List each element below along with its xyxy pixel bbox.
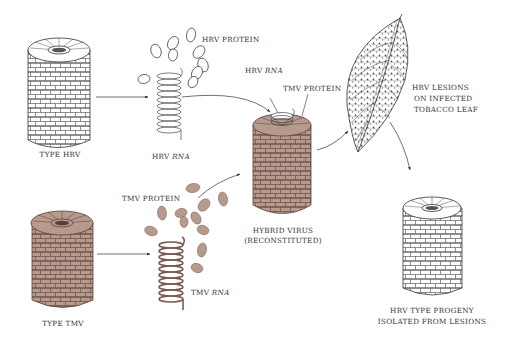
label-hybrid-tmv-protein: TMV PROTEIN bbox=[283, 84, 341, 93]
label-hybrid-line1: HYBRID VIRUS bbox=[244, 226, 322, 236]
label-hybrid-hrv-rna-strain: HRV bbox=[245, 66, 265, 75]
label-hrv-protein: HRV PROTEIN bbox=[202, 35, 260, 44]
label-hybrid-virus: HYBRID VIRUS (RECONSTITUTED) bbox=[244, 226, 322, 246]
tobacco-leaf bbox=[347, 14, 408, 152]
label-type-hrv: TYPE HRV bbox=[40, 150, 81, 159]
arrow-hrv-rna-to-hybrid bbox=[182, 95, 270, 112]
label-hrv-lesions-line2: ON INFECTED bbox=[412, 93, 478, 104]
label-hybrid-hrv-rna-text: RNA bbox=[265, 66, 283, 75]
label-tmv-rna: TMV RNA bbox=[191, 288, 230, 297]
type-hrv-virus bbox=[28, 38, 90, 148]
label-hrv-rna: HRV RNA bbox=[152, 152, 190, 161]
hrv-protein-subunits bbox=[137, 27, 210, 89]
label-progeny-line1: HRV TYPE PROGENY bbox=[378, 305, 486, 316]
hybrid-virus bbox=[253, 109, 311, 214]
leader-tmv-protein bbox=[302, 94, 308, 116]
label-type-tmv: TYPE TMV bbox=[42, 319, 84, 328]
label-hybrid-hrv-rna: HRV RNA bbox=[245, 66, 283, 75]
arrow-hybrid-to-leaf bbox=[317, 131, 348, 150]
label-tmv-protein: TMV PROTEIN bbox=[122, 194, 180, 203]
type-tmv-virus bbox=[31, 211, 93, 308]
tmv-rna-coil bbox=[159, 237, 184, 310]
arrow-leaf-to-progeny bbox=[390, 122, 410, 170]
label-hrv-lesions-line3: TOBACCO LEAF bbox=[412, 104, 478, 115]
label-hrv-rna-text: RNA bbox=[172, 152, 190, 161]
label-hybrid-line2: (RECONSTITUTED) bbox=[244, 236, 322, 246]
label-progeny-line2: ISOLATED FROM LESIONS bbox=[378, 316, 486, 327]
label-hrv-progeny: HRV TYPE PROGENY ISOLATED FROM LESIONS bbox=[378, 305, 486, 327]
virus-reconstitution-diagram: TYPE HRV HRV PROTEIN HRV RNA HRV RNA TMV… bbox=[0, 0, 509, 345]
label-hrv-lesions: HRV LESIONS ON INFECTED TOBACCO LEAF bbox=[412, 82, 478, 115]
hrv-rna-coil bbox=[157, 68, 182, 140]
label-hrv-rna-strain: HRV bbox=[152, 152, 172, 161]
label-tmv-rna-strain: TMV bbox=[191, 288, 212, 297]
leader-hrv-rna bbox=[270, 98, 278, 113]
label-hrv-lesions-line1: HRV LESIONS bbox=[412, 82, 478, 93]
hrv-progeny-virus bbox=[403, 197, 462, 295]
label-tmv-rna-text: RNA bbox=[212, 288, 230, 297]
